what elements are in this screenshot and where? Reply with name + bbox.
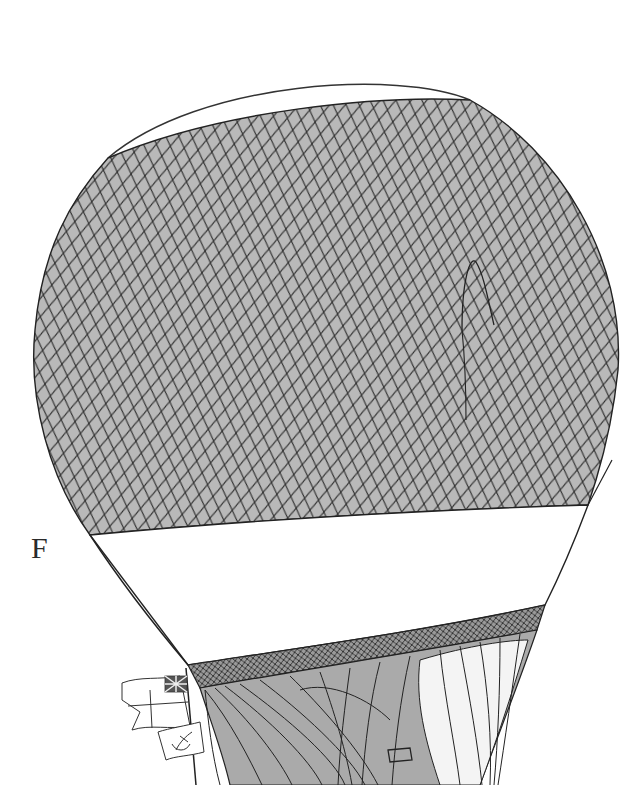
envelope-net <box>34 99 619 535</box>
balloon-figure: F <box>0 0 622 785</box>
figure-label: F <box>31 533 48 563</box>
union-jack-ensign-flag <box>122 676 190 730</box>
cone-white-gore <box>419 640 528 785</box>
balloon-illustration <box>0 0 622 785</box>
